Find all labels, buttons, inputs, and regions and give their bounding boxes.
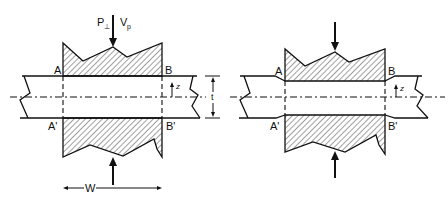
label-a-prime: A' <box>270 120 279 132</box>
plate-bottom-edge-right <box>385 115 428 118</box>
label-v-p-sub: p <box>127 23 131 31</box>
label-b-prime: B' <box>166 120 175 132</box>
label-a: A <box>275 65 283 77</box>
width-dimension <box>63 186 162 190</box>
label-z: z <box>399 84 404 93</box>
top-force-arrow <box>109 15 117 47</box>
bottom-force-arrow <box>109 157 117 185</box>
bottom-load-block <box>285 115 385 154</box>
z-axis-arrow <box>170 82 174 97</box>
top-force-arrow <box>331 22 339 51</box>
label-p-perp-sub: ⊥ <box>104 23 110 30</box>
z-axis-arrow <box>394 84 398 97</box>
plate-loading-diagram: P ⊥ V p A B A' B' z t <box>0 0 448 204</box>
label-b-prime: B' <box>388 120 397 132</box>
label-w: W <box>85 182 96 194</box>
label-a: A <box>54 64 62 76</box>
bottom-load-block <box>63 118 162 157</box>
plate-right <box>230 76 445 118</box>
top-load-block <box>63 43 162 76</box>
label-a-prime: A' <box>48 120 57 132</box>
right-panel: A B A' B' z <box>230 22 445 178</box>
left-panel: P ⊥ V p A B A' B' z t <box>10 15 220 194</box>
label-b: B <box>165 64 172 76</box>
bottom-force-arrow <box>331 151 339 178</box>
label-t: t <box>211 92 214 102</box>
top-load-block <box>285 49 385 81</box>
label-z: z <box>175 82 180 91</box>
plate-bottom-edge-left <box>239 115 285 118</box>
label-b: B <box>388 65 395 77</box>
